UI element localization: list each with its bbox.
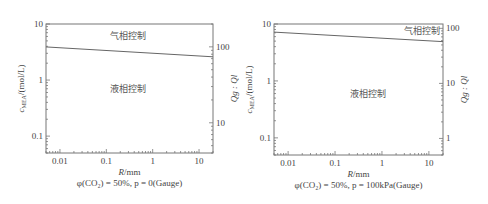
x-axis-label: R/mm	[346, 169, 369, 179]
y-right-tick-label: 100	[216, 42, 230, 52]
x-tick-label: 10	[195, 156, 205, 166]
liquid-phase-control-label: 液相控制	[110, 83, 146, 94]
y-right-tick-label: 1	[446, 133, 451, 143]
x-tick-label: 10	[424, 158, 434, 168]
y-tick-label: 1	[39, 75, 44, 85]
y-right-tick-label: 100	[446, 23, 460, 33]
y-right-tick-label: 10	[446, 78, 456, 88]
chart-caption: φ(CO₂) = 50%, p = 0(Gauge)	[77, 178, 182, 188]
y-right-axis-label: Qg : Ql	[229, 74, 239, 102]
y-tick-label: 0.1	[32, 131, 43, 141]
chart-panel-1: 0.010.11100.111010100气相控制液相控制R/mmφ(CO₂) …	[16, 19, 239, 188]
x-tick-label: 0.1	[329, 158, 340, 168]
gas-phase-control-label: 气相控制	[404, 25, 440, 36]
x-axis-label: R/mm	[117, 167, 140, 177]
series-line-boundary	[46, 47, 213, 57]
x-tick-label: 1	[380, 158, 385, 168]
x-tick-label: 0.01	[52, 156, 68, 166]
chart-figure: 0.010.11100.111010100气相控制液相控制R/mmφ(CO₂) …	[0, 0, 488, 204]
y-tick-label: 0.1	[260, 133, 271, 143]
y-tick-label: 10	[262, 19, 272, 29]
chart-panel-2: 0.010.11100.1110110100气相控制液相控制R/mmφ(CO₂)…	[244, 19, 469, 190]
gas-phase-control-label: 气相控制	[110, 30, 146, 41]
x-tick-label: 0.1	[101, 156, 112, 166]
chart-caption: φ(CO₂) = 50%, p = 100kPa(Gauge)	[295, 180, 423, 190]
y-tick-label: 1	[267, 76, 272, 86]
liquid-phase-control-label: 液相控制	[350, 88, 386, 99]
y-axis-label: cMEA/(mol/L)	[16, 65, 27, 113]
x-tick-label: 1	[150, 156, 155, 166]
y-tick-label: 10	[34, 19, 44, 29]
y-right-axis-label: Qg : Ql	[459, 75, 469, 103]
x-tick-label: 0.01	[280, 158, 296, 168]
y-axis-label: cMEA/(mol/L)	[244, 66, 255, 114]
y-right-tick-label: 10	[216, 118, 226, 128]
